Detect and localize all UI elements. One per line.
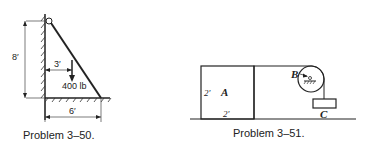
base-label: 6′ [69, 106, 76, 116]
block-width-label: 2′ [223, 109, 231, 119]
load-label: 400 lb [62, 81, 87, 91]
figure-3-50: 8′ 3′ 400 lb 6′ Problem 3–50. [12, 14, 111, 141]
height-label: 8′ [12, 52, 19, 62]
diagram-canvas: 8′ 3′ 400 lb 6′ Problem 3–50. [0, 0, 366, 146]
weight-c [313, 99, 336, 108]
caption-3-51: Problem 3–51. [233, 127, 305, 139]
figure-3-51: B C 2′ A 2′ Problem 3–51. [190, 66, 356, 139]
caption-3-50: Problem 3–50. [23, 129, 95, 141]
weight-label: C [320, 108, 328, 120]
block-height-label: 2′ [204, 88, 212, 98]
block-name-label: A [220, 86, 228, 98]
load-offset-label: 3′ [54, 59, 61, 69]
pulley-label: B [290, 68, 298, 80]
